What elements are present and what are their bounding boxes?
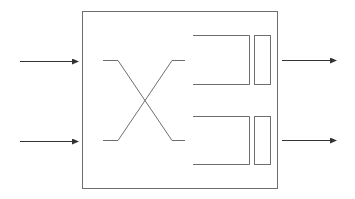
queue-channel-1: [193, 36, 250, 85]
queue-channel-2: [193, 117, 250, 165]
output-queue-1: [193, 36, 271, 85]
buffer-cell-2: [255, 117, 271, 165]
crossover-lines: [103, 61, 185, 141]
buffer-cell-1: [255, 36, 271, 85]
output-queue-2: [193, 117, 271, 165]
cross-path-bottom-to-top: [103, 61, 185, 141]
cross-path-top-to-bottom: [103, 61, 185, 141]
outer-switch-box: [83, 12, 278, 189]
switch-diagram: [0, 0, 355, 199]
